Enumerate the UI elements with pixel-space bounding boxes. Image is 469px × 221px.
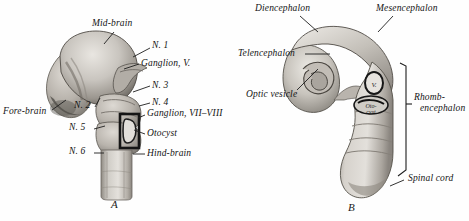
label-nerve-1: N. 1 (152, 40, 168, 51)
label-mesencephalon: Mesencephalon (376, 3, 438, 14)
label-nerve-5: N. 5 (69, 122, 85, 133)
trunk-vesicle-marker-lower: Oto- cyst (354, 96, 388, 115)
label-nerve-4: N. 4 (152, 97, 168, 108)
label-fore-brain: Fore-brain (3, 106, 46, 117)
label-ganglion-vii-viii: Ganglion, VII–VIII (147, 108, 223, 119)
label-nerve-6: N. 6 (69, 146, 85, 157)
label-otocyst: Otocyst (147, 128, 177, 139)
label-telencephalon: Telencephalon (238, 48, 295, 59)
label-optic-vesicle: Optic vesicle (246, 89, 297, 100)
label-hind-brain: Hind-brain (147, 148, 191, 159)
figure-a-leaders (52, 32, 150, 154)
label-diencephalon: Diencephalon (255, 3, 310, 14)
figure-b-leaders (297, 16, 404, 186)
svg-text:Oto-: Oto- (366, 103, 377, 109)
svg-text:V.: V. (371, 81, 376, 89)
anatomical-plate: V. Oto- cyst (0, 0, 469, 221)
figure-letter-a: A (111, 198, 118, 210)
label-ganglion-v: Ganglion, V. (141, 58, 190, 69)
label-mid-brain: Mid-brain (92, 18, 132, 29)
label-spinal-cord: Spinal cord (408, 173, 453, 184)
otocyst-marker (120, 114, 139, 148)
svg-text:cyst: cyst (366, 109, 376, 115)
label-nerve-2: N. 2 (74, 100, 90, 111)
figure-a-artwork: V. Oto- cyst (0, 0, 469, 221)
figure-letter-b: B (348, 201, 355, 213)
label-nerve-3: N. 3 (152, 80, 168, 91)
rhombencephalon-bracket (398, 63, 412, 176)
trunk-vesicle-marker-upper: V. (365, 72, 383, 94)
label-rhombencephalon-line1: Rhomb- (414, 92, 445, 103)
figure-b-specimen: V. Oto- cyst (283, 26, 393, 197)
figure-a-specimen (46, 31, 147, 200)
label-rhombencephalon-line2: encephalon (420, 103, 465, 114)
